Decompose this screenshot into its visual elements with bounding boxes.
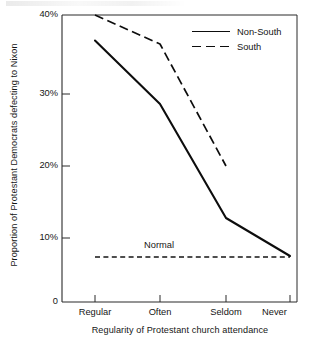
legend-item-non-south: Non-South: [192, 24, 281, 39]
y-tick-label-30: 30%: [2, 88, 58, 98]
legend-label-non-south: Non-South: [237, 27, 281, 37]
x-tick-label-seldom: Seldom: [196, 307, 256, 317]
legend-label-south: South: [237, 42, 261, 52]
dashed-line-key-icon: [192, 42, 230, 52]
y-tick-label-20: 20%: [2, 160, 58, 170]
x-axis-ticks: [95, 295, 290, 302]
y-tick-label-0: 0: [2, 296, 58, 306]
legend-item-south: South: [192, 39, 281, 54]
y-tick-label-40: 40%: [2, 9, 58, 19]
x-tick-label-never: Never: [262, 307, 320, 317]
x-tick-label-often: Often: [130, 307, 190, 317]
x-axis-label: Regularity of Protestant church attendan…: [62, 325, 298, 335]
chart-legend: Non-South South: [192, 24, 281, 54]
normal-annotation-label: Normal: [144, 240, 174, 250]
y-axis-ticks: [62, 94, 70, 238]
series-non-south: [95, 41, 290, 257]
y-tick-label-10: 10%: [2, 232, 58, 242]
solid-line-key-icon: [192, 27, 230, 37]
axis-frame: [62, 15, 297, 302]
y-axis-label: Proportion of Protestant Democrats defec…: [9, 5, 19, 305]
scan-artifact-smudge: [6, 1, 186, 6]
x-tick-label-regular: Regular: [63, 307, 127, 317]
chart-figure: Proportion of Protestant Democrats defec…: [0, 0, 323, 346]
